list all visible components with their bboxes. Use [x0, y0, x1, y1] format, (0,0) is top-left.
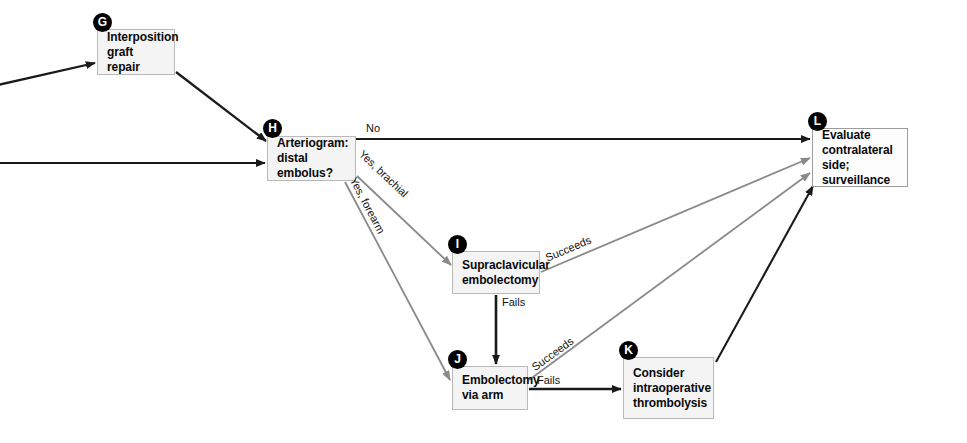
- node-J-label: Embolectomy via arm: [462, 373, 520, 403]
- node-K-label: Consider intraoperative thrombolysis: [633, 366, 706, 411]
- edge-J-to-L: [529, 173, 810, 380]
- node-I-badge: I: [448, 235, 467, 254]
- edge-G-to-H: [176, 72, 266, 141]
- node-I[interactable]: Supraclavicular embolectomy: [452, 251, 540, 294]
- node-J[interactable]: Embolectomy via arm: [452, 366, 528, 410]
- node-H-badge: H: [263, 119, 282, 138]
- edge-I-to-L: [541, 158, 810, 272]
- node-H[interactable]: Arteriogram: distal embolus?: [267, 136, 356, 181]
- node-L-badge: L: [808, 112, 827, 131]
- node-J-badge: J: [448, 350, 467, 369]
- node-L-label: Evaluate contralateral side; surveillanc…: [822, 128, 900, 188]
- node-G-badge: G: [93, 13, 112, 32]
- node-G-label: Interposition graft repair: [107, 30, 167, 75]
- node-H-label: Arteriogram: distal embolus?: [277, 136, 348, 181]
- node-K-badge: K: [619, 341, 638, 360]
- edge-K-to-L: [716, 186, 813, 362]
- node-I-label: Supraclavicular embolectomy: [462, 258, 532, 288]
- flowchart-canvas: Interposition graft repair G Arteriogram…: [0, 0, 967, 443]
- edge-in-to-G: [0, 63, 95, 85]
- node-L[interactable]: Evaluate contralateral side; surveillanc…: [812, 128, 908, 187]
- edge-label-fails-i: Fails: [502, 296, 525, 308]
- node-K[interactable]: Consider intraoperative thrombolysis: [623, 357, 714, 419]
- edge-label-fails-j: Fails: [537, 374, 560, 386]
- edge-label-no: No: [366, 122, 380, 134]
- node-G[interactable]: Interposition graft repair: [97, 29, 175, 75]
- edge-H-to-J: [345, 182, 450, 380]
